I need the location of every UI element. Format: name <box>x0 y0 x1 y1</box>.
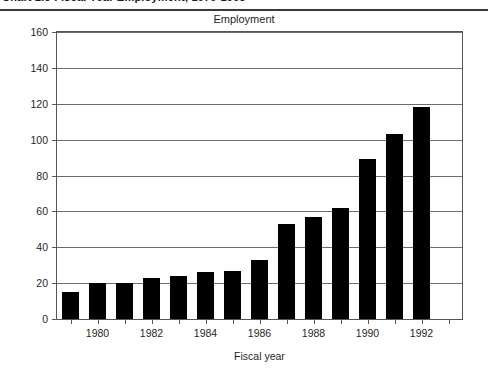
y-axis-label: 120 <box>30 98 48 110</box>
x-axis-tick <box>368 319 369 324</box>
y-axis-tick <box>52 32 57 33</box>
bar <box>89 283 106 319</box>
bar <box>305 217 322 319</box>
y-axis-label: 40 <box>36 241 48 253</box>
x-axis-tick <box>233 319 234 324</box>
x-axis-label: 1990 <box>356 327 379 339</box>
chart-figure: Employment 02040608010012014016019801982… <box>0 11 488 374</box>
x-axis-tick <box>395 319 396 324</box>
x-axis-label: 1988 <box>302 327 325 339</box>
chart-title: Employment <box>0 13 488 25</box>
bar <box>278 224 295 319</box>
x-axis-tick <box>206 319 207 324</box>
bar <box>386 134 403 319</box>
y-axis-tick <box>52 176 57 177</box>
y-axis-label: 140 <box>30 62 48 74</box>
gridline <box>57 32 462 33</box>
y-axis-label: 160 <box>30 26 48 38</box>
page-header: Chart 2.5 Fiscal Year Employment, 1979-1… <box>0 0 488 11</box>
y-axis-tick <box>52 319 57 320</box>
bar <box>332 208 349 319</box>
page-header-title: Chart 2.5 Fiscal Year Employment, 1979-1… <box>2 0 246 3</box>
x-axis-tick <box>98 319 99 324</box>
bar <box>359 159 376 319</box>
y-axis-label: 80 <box>36 170 48 182</box>
bar <box>197 272 214 319</box>
x-axis-tick <box>71 319 72 324</box>
y-axis-label: 60 <box>36 205 48 217</box>
gridline <box>57 68 462 69</box>
bar <box>143 278 160 319</box>
plot-area: 0204060801001201401601980198219841986198… <box>56 31 463 320</box>
x-axis-tick <box>449 319 450 324</box>
bar <box>170 276 187 319</box>
y-axis-tick <box>52 104 57 105</box>
y-axis-tick <box>52 68 57 69</box>
x-axis-tick <box>125 319 126 324</box>
x-axis-tick <box>341 319 342 324</box>
y-axis-tick <box>52 140 57 141</box>
x-axis-title: Fiscal year <box>56 350 463 362</box>
x-axis-tick <box>179 319 180 324</box>
x-axis-label: 1982 <box>140 327 163 339</box>
x-axis-label: 1980 <box>86 327 109 339</box>
x-axis-label: 1986 <box>248 327 271 339</box>
x-axis-label: 1984 <box>194 327 217 339</box>
bar <box>62 292 79 319</box>
y-axis-tick <box>52 247 57 248</box>
bar <box>116 283 133 319</box>
y-axis-tick <box>52 211 57 212</box>
bar <box>224 271 241 319</box>
x-axis-tick <box>422 319 423 324</box>
y-axis-label: 20 <box>36 277 48 289</box>
x-axis-label: 1992 <box>410 327 433 339</box>
gridline <box>57 104 462 105</box>
x-axis-tick <box>314 319 315 324</box>
x-axis-tick <box>152 319 153 324</box>
x-axis-tick <box>287 319 288 324</box>
bar <box>251 260 268 319</box>
x-axis-tick <box>260 319 261 324</box>
y-axis-tick <box>52 283 57 284</box>
bar <box>413 107 430 319</box>
y-axis-label: 100 <box>30 134 48 146</box>
y-axis-label: 0 <box>42 313 48 325</box>
